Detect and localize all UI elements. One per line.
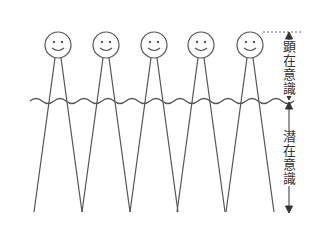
conscious-char-4: 識 — [283, 82, 296, 96]
eye-icon — [196, 41, 198, 43]
eye-icon — [109, 41, 111, 43]
consciousness-diagram — [0, 0, 310, 233]
conscious-label: 顕 在 意 識 — [281, 40, 297, 96]
eye-icon — [149, 41, 151, 43]
smiley-face-icon — [45, 32, 71, 58]
eye-icon — [253, 41, 255, 43]
eye-icon — [245, 41, 247, 43]
leg-line — [109, 58, 130, 212]
smiley-figure-3 — [130, 32, 178, 212]
leg-line — [226, 58, 247, 212]
eye-icon — [204, 41, 206, 43]
eye-icon — [157, 41, 159, 43]
leg-line — [130, 58, 151, 212]
leg-line — [82, 58, 103, 212]
leg-line — [61, 58, 82, 212]
smiley-figure-1 — [34, 32, 82, 212]
subconscious-label: 潜 在 意 識 — [281, 130, 297, 186]
mouth-icon — [52, 48, 64, 51]
smiley-figure-5 — [226, 32, 274, 212]
smiley-figure-4 — [177, 32, 225, 212]
smiley-face-icon — [188, 32, 214, 58]
leg-line — [157, 58, 178, 212]
mouth-icon — [195, 48, 207, 51]
eye-icon — [101, 41, 103, 43]
subconscious-char-3: 意 — [283, 158, 296, 172]
mouth-icon — [100, 48, 112, 51]
eye-icon — [53, 41, 55, 43]
surface-wave-line — [30, 99, 294, 104]
conscious-char-2: 在 — [283, 54, 296, 68]
subconscious-char-2: 在 — [283, 144, 296, 158]
leg-line — [253, 58, 274, 212]
mouth-icon — [148, 48, 160, 51]
mouth-icon — [244, 48, 256, 51]
subconscious-char-1: 潜 — [283, 130, 296, 144]
eye-icon — [61, 41, 63, 43]
leg-line — [34, 58, 55, 212]
smiley-face-icon — [237, 32, 263, 58]
leg-line — [177, 58, 198, 212]
conscious-char-1: 顕 — [283, 40, 296, 54]
leg-line — [204, 58, 225, 212]
smiley-figure-2 — [82, 32, 130, 212]
smiley-face-icon — [93, 32, 119, 58]
subconscious-char-4: 識 — [283, 172, 296, 186]
conscious-char-3: 意 — [283, 68, 296, 82]
figures-group — [34, 32, 274, 212]
smiley-face-icon — [141, 32, 167, 58]
